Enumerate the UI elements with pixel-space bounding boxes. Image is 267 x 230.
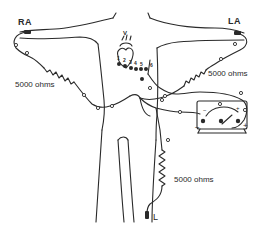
resistor-label-ll: 5000 ohms <box>174 176 214 184</box>
ra-wire <box>14 32 130 107</box>
ll-electrode <box>145 211 149 219</box>
resistor-label-la: 5000 ohms <box>208 70 248 78</box>
meter-pos-terminal-label: + <box>243 122 248 130</box>
lead-label-la: LA <box>228 17 241 26</box>
chest-electrode-2: 2 <box>123 58 126 63</box>
chest-electrode-6: 6 <box>150 63 153 68</box>
chest-electrode-5: 5 <box>140 62 143 67</box>
meter-scale-neg-label: − <box>203 107 207 113</box>
body-outline <box>20 13 244 222</box>
la-electrode <box>234 31 241 35</box>
meter-scale-pos-label: + <box>236 105 240 111</box>
meter-neg-terminal-label: − <box>195 124 200 132</box>
diagram-drawing <box>0 0 267 230</box>
chest-electrode-3: 3 <box>129 60 132 65</box>
la-wire <box>140 34 247 100</box>
chest-electrode-1: 1 <box>117 56 120 61</box>
ra-electrode <box>24 30 31 34</box>
chest-electrode-4: 4 <box>134 61 137 66</box>
lead-label-l: L <box>153 213 159 222</box>
ecg-diagram: RA LA L 5000 ohms 5000 ohms 5000 ohms 1 … <box>0 0 267 230</box>
chest-v-label: V <box>123 30 127 36</box>
lead-label-ra: RA <box>18 18 32 27</box>
resistor-label-ra: 5000 ohms <box>15 81 55 89</box>
